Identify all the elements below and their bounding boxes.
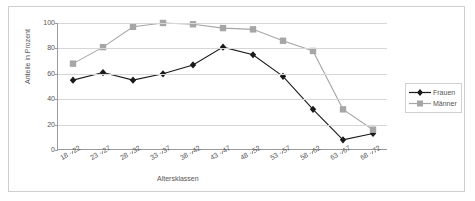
y-axis-tick-label: 0 [33, 146, 55, 154]
gridline [58, 99, 387, 100]
legend-marker-diamond-icon [409, 88, 431, 97]
data-point [370, 126, 376, 132]
data-point [130, 24, 136, 30]
legend-marker-square-icon [409, 99, 431, 108]
data-point [250, 26, 256, 32]
y-axis-tick-label: 40 [33, 95, 55, 103]
y-axis-tick-mark [55, 23, 58, 24]
data-point [340, 106, 346, 112]
data-point [70, 77, 76, 84]
data-point [220, 25, 226, 31]
y-axis-tick-mark [55, 150, 58, 151]
chart-legend: Frauen Männer [405, 83, 462, 113]
y-axis-tick-label: 100 [33, 19, 55, 27]
data-point [220, 44, 226, 51]
x-axis-title: Altersklassen [157, 175, 199, 182]
data-point [250, 51, 256, 58]
series-line-frauen [73, 47, 373, 140]
y-axis-tick-label: 20 [33, 121, 55, 129]
data-point [280, 38, 286, 44]
data-point [130, 77, 136, 84]
x-axis-tick-labels: 18 - 2223 - 2728 - 3233 - 3738 - 4243 - … [57, 151, 387, 183]
y-axis-tick-mark [55, 99, 58, 100]
gridline [58, 74, 387, 75]
y-axis-tick-label: 60 [33, 70, 55, 78]
data-point [100, 69, 106, 76]
y-axis-tick-mark [55, 74, 58, 75]
y-axis-tick-mark [55, 125, 58, 126]
data-point [70, 60, 76, 66]
legend-item-frauen[interactable]: Frauen [409, 87, 457, 98]
y-axis-tick-label: 80 [33, 44, 55, 52]
plot-area [57, 23, 387, 150]
y-axis-tick-labels: 020406080100 [29, 23, 55, 150]
gridline [58, 125, 387, 126]
y-axis-tick-mark [55, 48, 58, 49]
legend-label-maenner: Männer [433, 100, 457, 107]
chart-plot-svg [58, 23, 388, 150]
legend-item-maenner[interactable]: Männer [409, 98, 457, 109]
gridline [58, 48, 387, 49]
gridline [58, 23, 387, 24]
data-point [190, 61, 196, 68]
chart-frame: Anteile in Prozent 020406080100 18 - 222… [8, 6, 465, 192]
legend-label-frauen: Frauen [433, 89, 455, 96]
